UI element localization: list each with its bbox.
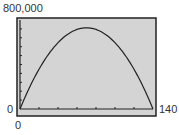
y-min-label: 0 [7,104,13,115]
chart [0,0,179,135]
y-max-label: 800,000 [3,3,43,14]
x-min-label: 0 [15,120,21,131]
plot-area [17,18,156,116]
x-max-label: 140 [159,104,177,115]
